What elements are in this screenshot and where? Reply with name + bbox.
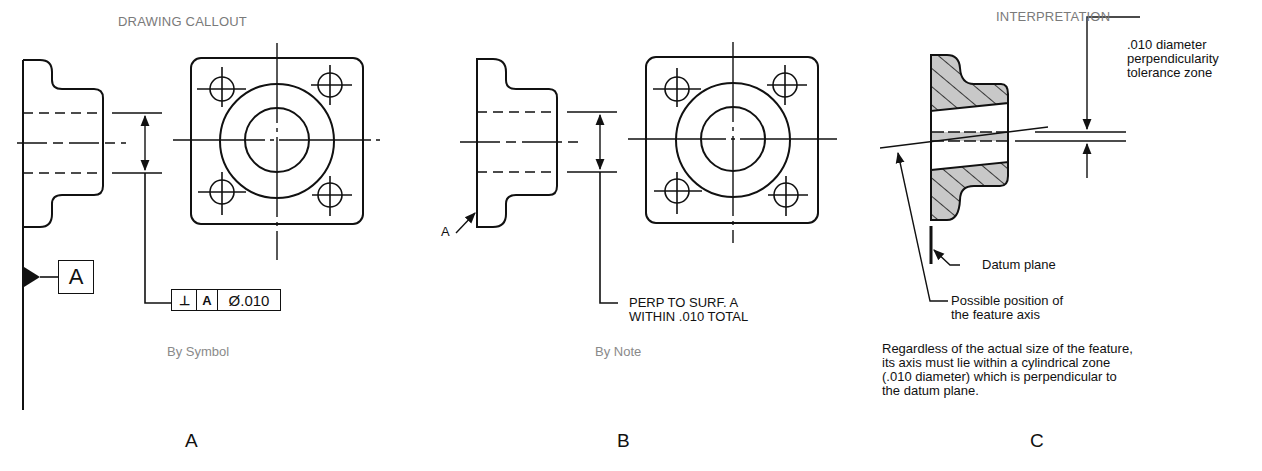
- zone-label-line3: tolerance zone: [1127, 66, 1212, 80]
- panel-a-front-view: [173, 43, 382, 260]
- panel-a-header: DRAWING CALLOUT: [118, 14, 247, 29]
- panel-a-side-view: [17, 60, 172, 410]
- panel-a-letter: A: [185, 430, 198, 452]
- drawing-canvas: [0, 0, 1262, 471]
- fcf-tolerance: Ø.010: [218, 290, 280, 310]
- axis-label-line1: Possible position of: [951, 294, 1063, 308]
- panel-b-letter: B: [617, 430, 630, 452]
- panel-c-header: INTERPRETATION: [996, 9, 1110, 24]
- panel-b-caption: By Note: [595, 344, 641, 359]
- perp-note-line2: WITHIN .010 TOTAL: [629, 310, 748, 324]
- panel-c-letter: C: [1030, 430, 1044, 452]
- datum-plane-label: Datum plane: [982, 258, 1056, 272]
- perpendicularity-symbol: ⊥: [172, 290, 197, 310]
- interpretation-explanation: Regardless of the actual size of the fea…: [882, 342, 1137, 398]
- axis-label-line2: the feature axis: [951, 308, 1040, 322]
- feature-control-frame: ⊥ A Ø.010: [171, 289, 281, 311]
- fcf-datum-ref: A: [197, 290, 218, 310]
- perp-note-line1: PERP TO SURF. A: [629, 296, 738, 310]
- panel-b-side-view: [456, 59, 618, 303]
- zone-label-line2: perpendicularity: [1127, 52, 1219, 66]
- zone-label-line1: .010 diameter: [1127, 38, 1207, 52]
- panel-b-front-view: [628, 42, 837, 243]
- surface-a-label: A: [441, 225, 450, 239]
- panel-a-caption: By Symbol: [167, 344, 229, 359]
- datum-feature-symbol: A: [58, 260, 94, 294]
